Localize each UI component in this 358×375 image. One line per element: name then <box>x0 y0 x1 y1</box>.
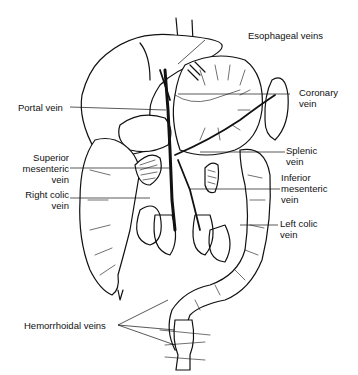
label-esophageal-veins: Esophageal veins <box>248 30 323 41</box>
label-superior-mesenteric-vein: Superior mesenteric vein <box>20 152 69 185</box>
transverse-colon-cut-ends <box>135 155 219 192</box>
stomach <box>173 56 262 155</box>
label-coronary-vein: Coronary vein <box>299 87 338 109</box>
spleen <box>265 78 288 140</box>
label-hemorrhoidal-veins: Hemorrhoidal veins <box>24 320 106 331</box>
label-inferior-mesenteric-vein: Inferior mesenteric vein <box>281 172 327 205</box>
label-portal-vein: Portal vein <box>18 102 63 113</box>
label-splenic-vein: Splenic vein <box>286 145 317 167</box>
rectum <box>160 320 210 370</box>
label-right-colic-vein: Right colic vein <box>10 189 69 211</box>
portal-vein <box>160 70 175 230</box>
mesenteric-arcades <box>137 206 230 262</box>
ascending-colon <box>80 139 140 301</box>
label-left-colic-vein: Left colic vein <box>280 218 318 240</box>
inferior-mesenteric-vein-path <box>178 160 200 230</box>
